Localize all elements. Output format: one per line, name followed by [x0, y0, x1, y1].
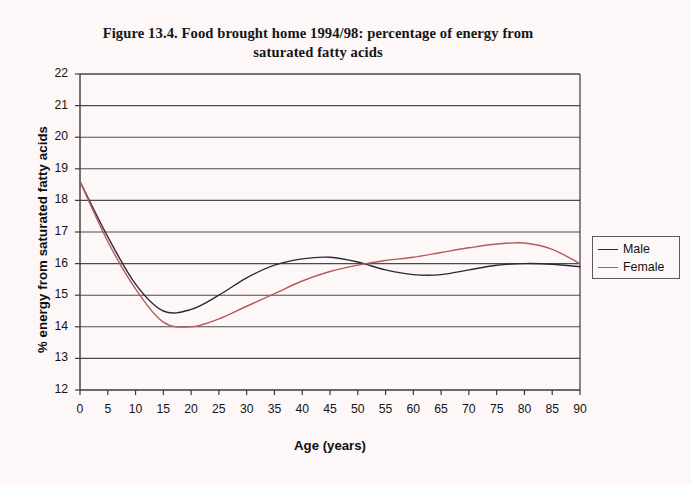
figure-container: Figure 13.4. Food brought home 1994/98: …: [0, 0, 691, 485]
series-line-male: [80, 181, 580, 313]
x-tick-label: 50: [346, 402, 370, 416]
x-tick-label: 90: [568, 402, 592, 416]
legend-swatch-male: [598, 249, 618, 250]
y-tick-label: 12: [40, 382, 68, 396]
y-tick-label: 14: [40, 319, 68, 333]
x-tick-label: 5: [96, 402, 120, 416]
x-tick-label: 75: [485, 402, 509, 416]
data-series: [80, 181, 580, 327]
x-tick-label: 20: [179, 402, 203, 416]
x-tick-label: 30: [235, 402, 259, 416]
legend-item-female[interactable]: Female: [598, 258, 664, 276]
tick-marks: [75, 74, 580, 395]
chart-title-line-1: Figure 13.4. Food brought home 1994/98: …: [62, 24, 574, 43]
y-tick-label: 15: [40, 287, 68, 301]
x-tick-label: 80: [512, 402, 536, 416]
x-tick-label: 25: [207, 402, 231, 416]
x-tick-label: 70: [457, 402, 481, 416]
y-tick-label: 16: [40, 256, 68, 270]
x-tick-label: 65: [429, 402, 453, 416]
y-tick-label: 22: [40, 66, 68, 80]
x-tick-label: 15: [151, 402, 175, 416]
x-tick-label: 40: [290, 402, 314, 416]
y-tick-label: 17: [40, 224, 68, 238]
x-tick-label: 0: [68, 402, 92, 416]
y-tick-label: 13: [40, 350, 68, 364]
y-tick-label: 21: [40, 98, 68, 112]
x-axis-title: Age (years): [80, 438, 580, 453]
x-tick-label: 45: [318, 402, 342, 416]
legend: Male Female: [592, 236, 680, 279]
legend-label-male: Male: [623, 242, 650, 256]
legend-item-male[interactable]: Male: [598, 240, 650, 258]
chart-title-line-2: saturated fatty acids: [62, 43, 574, 62]
chart-title: Figure 13.4. Food brought home 1994/98: …: [62, 24, 574, 62]
legend-swatch-female: [598, 267, 618, 268]
x-tick-label: 85: [540, 402, 564, 416]
x-tick-label: 60: [401, 402, 425, 416]
legend-label-female: Female: [623, 260, 664, 274]
x-tick-label: 35: [262, 402, 286, 416]
gridlines: [80, 74, 580, 358]
x-tick-label: 10: [124, 402, 148, 416]
y-tick-label: 20: [40, 129, 68, 143]
y-tick-label: 18: [40, 192, 68, 206]
y-tick-label: 19: [40, 161, 68, 175]
x-tick-label: 55: [374, 402, 398, 416]
